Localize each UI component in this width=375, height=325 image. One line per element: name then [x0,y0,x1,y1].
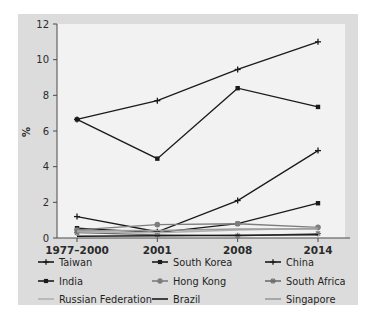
legend-label: India [59,276,83,287]
legend-item-brazil[interactable]: Brazil [152,294,200,305]
x-tick-label: 1977–2000 [45,244,109,256]
legend-label: China [286,257,314,268]
y-tick-label: 0 [43,233,49,244]
legend-item-hong-kong[interactable]: Hong Kong [152,276,226,287]
legend-label: Brazil [173,294,200,305]
x-axis-ticks: 1977–2000200120082014 [45,238,332,256]
legend-item-south-africa[interactable]: South Africa [265,276,346,287]
line-chart: 024681012 1977–2000200120082014 % Taiwan… [0,0,375,325]
y-tick-label: 12 [36,19,49,30]
y-axis-ticks: 024681012 [36,19,57,244]
y-axis-label: % [21,127,32,137]
x-tick-label: 2014 [303,244,332,256]
legend-item-china[interactable]: China [265,257,314,268]
legend-label: Taiwan [58,257,92,268]
y-tick-label: 2 [43,197,49,208]
y-tick-label: 10 [36,54,49,65]
legend-label: Singapore [286,294,335,305]
legend-label: South Africa [286,276,346,287]
legend-item-russian-federation[interactable]: Russian Federation [38,294,152,305]
x-tick-label: 2001 [143,244,172,256]
legend-item-singapore[interactable]: Singapore [265,294,335,305]
legend-item-south-korea[interactable]: South Korea [152,257,232,268]
y-tick-label: 6 [43,126,49,137]
legend-label: Hong Kong [173,276,226,287]
y-tick-label: 4 [43,161,49,172]
x-tick-label: 2008 [223,244,252,256]
chart-legend: TaiwanSouth KoreaChinaIndiaHong KongSout… [38,257,346,305]
legend-item-taiwan[interactable]: Taiwan [38,257,92,268]
y-tick-label: 8 [43,90,49,101]
legend-item-india[interactable]: India [38,276,83,287]
legend-label: Russian Federation [59,294,152,305]
legend-label: South Korea [173,257,232,268]
